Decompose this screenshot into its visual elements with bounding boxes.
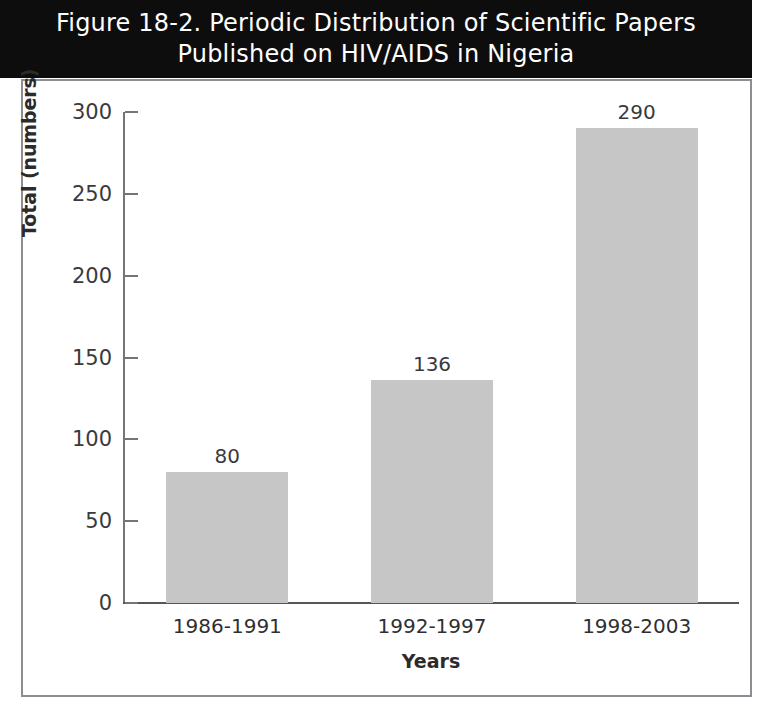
figure-title-line-2: Published on HIV/AIDS in Nigeria — [178, 39, 575, 70]
bar-value-label: 136 — [372, 352, 492, 376]
x-category-label: 1998-2003 — [537, 614, 737, 638]
y-tick-mark — [125, 357, 138, 359]
x-axis-label: Years — [123, 650, 739, 672]
y-tick-mark — [125, 602, 138, 604]
y-tick-mark — [125, 520, 138, 522]
y-tick-label: 50 — [52, 509, 112, 533]
y-tick-mark — [125, 438, 138, 440]
y-tick-mark — [125, 275, 138, 277]
bar-value-label: 290 — [577, 100, 697, 124]
bar — [371, 380, 493, 603]
figure-container: Figure 18-2. Periodic Distribution of Sc… — [0, 0, 774, 704]
y-tick-label: 0 — [52, 591, 112, 615]
x-category-label: 1986-1991 — [127, 614, 327, 638]
y-tick-label: 100 — [52, 427, 112, 451]
y-tick-label: 250 — [52, 182, 112, 206]
x-category-label: 1992-1997 — [332, 614, 532, 638]
figure-title-banner: Figure 18-2. Periodic Distribution of Sc… — [0, 0, 752, 78]
y-tick-mark — [125, 111, 138, 113]
bar — [166, 472, 288, 603]
bar-value-label: 80 — [167, 444, 287, 468]
y-tick-label: 200 — [52, 264, 112, 288]
y-axis-label: Total (numbers) — [18, 0, 40, 237]
y-tick-mark — [125, 193, 138, 195]
bar — [576, 128, 698, 603]
figure-title-line-1: Figure 18-2. Periodic Distribution of Sc… — [56, 8, 696, 39]
y-tick-label: 300 — [52, 100, 112, 124]
y-tick-label: 150 — [52, 346, 112, 370]
